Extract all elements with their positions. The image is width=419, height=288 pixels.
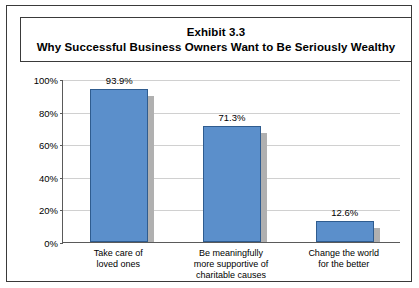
y-axis-tick-label: 100% [34,75,58,86]
x-axis-label-line: Take care of [65,248,172,259]
y-axis-tick-label: 80% [39,107,58,118]
y-axis-tick-label: 0% [44,238,58,249]
bar-value-label: 93.9% [106,75,133,86]
bar[interactable] [203,126,261,242]
bar-value-label: 12.6% [331,207,358,218]
bar-value-label: 71.3% [219,112,246,123]
x-axis-label-line: for the better [290,259,397,270]
x-axis-label-line: more supportive of [178,259,285,270]
bar[interactable] [316,221,374,242]
chart-title-line2: Why Successful Business Owners Want to B… [37,40,396,55]
axes: 0%20%40%60%80%100% 93.9%71.3%12.6% [62,80,400,243]
chart-outer-frame: Exhibit 3.3 Why Successful Business Owne… [6,5,412,282]
y-axis-tick-label: 40% [39,172,58,183]
x-axis-category-label: Change the worldfor the better [290,248,397,270]
bar[interactable] [90,89,148,242]
chart-page: Exhibit 3.3 Why Successful Business Owne… [0,0,419,288]
bar-slot [203,80,261,242]
y-axis-tick-label: 60% [39,140,58,151]
chart-title-box: Exhibit 3.3 Why Successful Business Owne… [20,17,412,62]
chart-title-line1: Exhibit 3.3 [187,25,246,40]
plot-area: 0%20%40%60%80%100% 93.9%71.3%12.6% Take … [20,70,412,280]
bars: 93.9%71.3%12.6% [63,80,400,242]
x-axis-labels: Take care ofloved onesBe meaningfullymor… [62,246,400,280]
x-axis-category-label: Take care ofloved ones [65,248,172,270]
x-axis-label-line: charitable causes [178,270,285,281]
x-axis-category-label: Be meaningfullymore supportive ofcharita… [178,248,285,281]
y-axis-tick-label: 20% [39,205,58,216]
y-axis-tick-mark [60,243,63,244]
bar-slot [90,80,148,242]
x-axis-label-line: Be meaningfully [178,248,285,259]
x-axis-label-line: Change the world [290,248,397,259]
x-axis-label-line: loved ones [65,259,172,270]
